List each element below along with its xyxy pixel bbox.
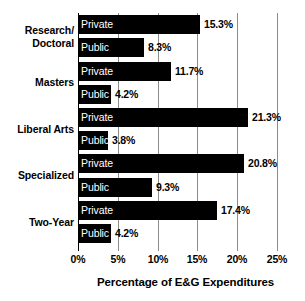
- bar-series-label: Public: [81, 180, 109, 195]
- category-label-research--doctoral: Research/ Doctoral: [2, 24, 74, 49]
- x-axis-title: Percentage of E&G Expenditures: [78, 275, 293, 290]
- bar-row: Private11.7%: [78, 62, 277, 81]
- bar-row: Private17.4%: [78, 201, 277, 220]
- bar-value-label: 9.3%: [156, 180, 179, 195]
- bar-series-label: Public: [81, 87, 109, 102]
- bar-row: Public3.8%: [78, 131, 277, 150]
- bar-public: Public: [78, 38, 144, 57]
- bar-value-label: 21.3%: [252, 110, 281, 125]
- bar-row: Public4.2%: [78, 85, 277, 104]
- bar-value-label: 8.3%: [148, 40, 171, 55]
- category-label-two-year: Two-Year: [2, 216, 74, 229]
- bar-series-label: Public: [81, 133, 109, 148]
- bar-public: Public: [78, 131, 108, 150]
- bar-series-label: Private: [81, 17, 113, 32]
- bar-value-label: 15.3%: [204, 17, 233, 32]
- bar-public: Public: [78, 85, 111, 104]
- category-label-specialized: Specialized: [2, 169, 74, 182]
- bar-private: Private: [78, 108, 248, 127]
- category-label-liberal-arts: Liberal Arts: [2, 123, 74, 136]
- bar-row: Private20.8%: [78, 154, 277, 173]
- bar-private: Private: [78, 201, 217, 220]
- bar-private: Private: [78, 62, 171, 81]
- x-axis-ticks: 0%5%10%15%20%25%: [0, 253, 305, 267]
- x-tick-label: 10%: [138, 253, 178, 266]
- bar-private: Private: [78, 154, 244, 173]
- bar-series-label: Private: [81, 156, 113, 171]
- bar-row: Public4.2%: [78, 224, 277, 243]
- category-axis: Research/ DoctoralMastersLiberal ArtsSpe…: [0, 13, 74, 245]
- bar-series-label: Private: [81, 110, 113, 125]
- x-tick-label: 20%: [217, 253, 257, 266]
- bar-series-label: Public: [81, 226, 109, 241]
- bar-value-label: 3.8%: [112, 133, 135, 148]
- bar-value-label: 20.8%: [248, 156, 277, 171]
- bar-value-label: 17.4%: [221, 203, 250, 218]
- bar-row: Public9.3%: [78, 178, 277, 197]
- x-tick-label: 0%: [58, 253, 98, 266]
- bar-chart: Research/ DoctoralMastersLiberal ArtsSpe…: [0, 0, 305, 301]
- bar-public: Public: [78, 178, 152, 197]
- x-tick-label: 25%: [257, 253, 297, 266]
- bar-row: Private21.3%: [78, 108, 277, 127]
- bar-row: Private15.3%: [78, 15, 277, 34]
- category-label-masters: Masters: [2, 76, 74, 89]
- bar-private: Private: [78, 15, 200, 34]
- plot-area: Private15.3%Public8.3%Private11.7%Public…: [78, 13, 277, 245]
- bar-public: Public: [78, 224, 111, 243]
- bar-series-label: Public: [81, 40, 109, 55]
- gridline-25: [277, 13, 278, 251]
- bar-value-label: 4.2%: [115, 226, 138, 241]
- bar-value-label: 11.7%: [175, 64, 203, 79]
- bar-series-label: Private: [81, 203, 113, 218]
- bar-series-label: Private: [81, 64, 113, 79]
- x-tick-label: 5%: [98, 253, 138, 266]
- bar-row: Public8.3%: [78, 38, 277, 57]
- bar-value-label: 4.2%: [115, 87, 138, 102]
- x-tick-label: 15%: [177, 253, 217, 266]
